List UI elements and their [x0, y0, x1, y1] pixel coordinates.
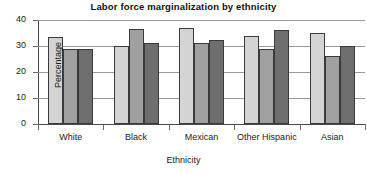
bar [179, 28, 194, 124]
bar [114, 46, 129, 124]
bar [340, 46, 355, 124]
bar [78, 49, 93, 124]
bar [209, 40, 224, 125]
category-label: Other Hispanic [234, 132, 299, 142]
category-label: Mexican [169, 132, 234, 142]
y-tick-label: 40 [2, 14, 26, 24]
bar [63, 49, 78, 124]
category-label: White [38, 132, 103, 142]
bar-group [103, 20, 168, 124]
x-tick-mark [38, 124, 39, 130]
y-tick-label: 30 [2, 40, 26, 50]
bar-chart: Labor force marginalization by ethnicity… [0, 0, 367, 179]
bar [274, 30, 289, 124]
bar [310, 33, 325, 124]
y-tick-label: 20 [2, 66, 26, 76]
y-tick-label: 0 [2, 118, 26, 128]
x-tick-mark [234, 124, 235, 130]
y-tick-label: 10 [2, 92, 26, 102]
y-tick-mark [33, 72, 38, 73]
bar-group [169, 20, 234, 124]
x-tick-mark [169, 124, 170, 130]
bar-group [300, 20, 365, 124]
y-axis-title: Percentage [53, 19, 63, 111]
x-axis-title: Ethnicity [0, 155, 367, 165]
chart-title: Labor force marginalization by ethnicity [0, 1, 367, 12]
x-tick-mark [300, 124, 301, 130]
plot-area: Percentage [38, 20, 365, 124]
y-tick-mark [33, 98, 38, 99]
bar-group [38, 20, 103, 124]
x-tick-mark [103, 124, 104, 130]
bar-group [234, 20, 299, 124]
bar [244, 36, 259, 124]
bar [259, 49, 274, 124]
x-tick-mark [365, 124, 366, 130]
category-label: Black [103, 132, 168, 142]
bar [129, 29, 144, 124]
bar [144, 43, 159, 124]
category-label: Asian [300, 132, 365, 142]
y-tick-mark [33, 20, 38, 21]
bar [194, 43, 209, 124]
bar [325, 56, 340, 124]
x-axis-line [38, 124, 365, 125]
y-tick-mark [33, 46, 38, 47]
